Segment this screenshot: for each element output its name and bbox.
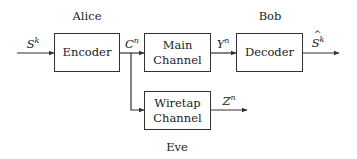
estimate-signal-label: Sk — [312, 35, 325, 50]
wiretap-channel-label-line1: Wiretap — [154, 96, 200, 111]
eve-label: Eve — [166, 140, 188, 154]
main-channel-label-line1: Main — [163, 38, 193, 53]
encoder-block: Encoder — [54, 33, 120, 72]
eve-output-signal-label: Zn — [222, 93, 235, 108]
wiretap-channel-label-line2: Channel — [153, 111, 201, 126]
decoder-label: Decoder — [245, 45, 294, 60]
codeword-signal-label: Cn — [125, 36, 139, 51]
bob-label: Bob — [259, 9, 282, 23]
decoder-block: Decoder — [236, 33, 303, 72]
wiretap-branch-arrow — [131, 53, 144, 110]
alice-label: Alice — [73, 9, 102, 23]
source-signal-label: Sk — [27, 36, 40, 51]
wiretap-channel-block: Wiretap Channel — [144, 91, 211, 130]
diagram-connections — [0, 0, 357, 159]
main-channel-block: Main Channel — [144, 33, 211, 72]
main-output-signal-label: Yn — [217, 36, 230, 51]
main-channel-label-line2: Channel — [153, 53, 201, 68]
encoder-label: Encoder — [63, 45, 112, 60]
